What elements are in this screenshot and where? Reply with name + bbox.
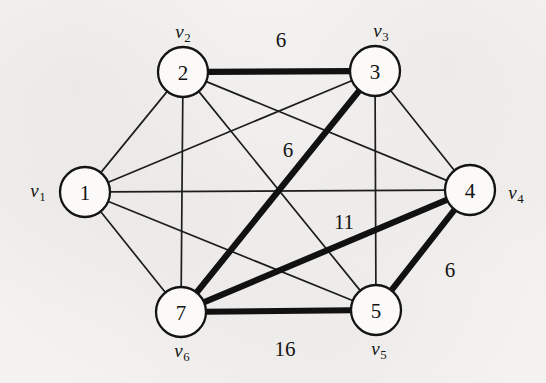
edge-weight-label-7-4: 11	[334, 210, 354, 235]
node-label-2: 2	[178, 61, 189, 85]
graph-node-1[interactable]: 1	[60, 167, 110, 217]
graph-node-3[interactable]: 3	[350, 46, 400, 96]
graph-node-2[interactable]: 2	[158, 47, 208, 97]
graph-edge-1-7	[100, 211, 166, 294]
graph-node-5[interactable]: 5	[351, 285, 401, 335]
graph-edge-2-7	[181, 96, 183, 288]
graph-edge-2-3	[207, 71, 351, 72]
vertex-name-v2: v2	[175, 21, 191, 46]
node-label-5: 5	[371, 299, 382, 323]
edge-weight-label-4-5: 6	[445, 258, 456, 283]
vertex-name-v3: v3	[373, 20, 389, 45]
figure-canvas: 123457 v1v2v3v4v5v6 6611616	[0, 0, 546, 383]
node-label-4: 4	[465, 179, 476, 203]
graph-edge-3-5	[375, 95, 376, 286]
edge-weight-label-3-7: 6	[283, 138, 294, 163]
node-label-3: 3	[370, 60, 381, 84]
graph-edge-7-5	[205, 310, 352, 312]
node-label-1: 1	[80, 181, 91, 205]
graph-edge-3-4	[390, 90, 455, 171]
node-label-7: 7	[176, 301, 187, 325]
graph-edge-7-4	[203, 199, 448, 302]
edge-weight-label-7-5: 16	[275, 337, 296, 362]
graph-node-4[interactable]: 4	[445, 165, 495, 215]
vertex-name-v1: v1	[30, 180, 46, 205]
graph-svg: 123457	[0, 0, 546, 383]
graph-node-7[interactable]: 7	[156, 287, 206, 337]
graph-edge-1-3	[107, 80, 353, 183]
edge-weight-label-2-3: 6	[276, 28, 287, 53]
vertex-name-v6: v6	[174, 340, 190, 365]
vertex-name-v4: v4	[508, 182, 524, 207]
vertex-name-v5: v5	[371, 338, 387, 363]
